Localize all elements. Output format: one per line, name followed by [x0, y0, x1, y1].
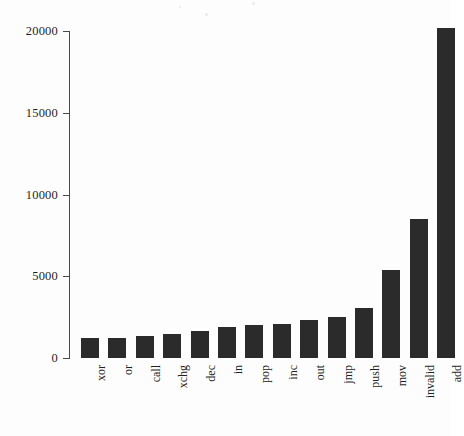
x-tick-label: xor	[95, 365, 107, 381]
y-tick-mark	[63, 276, 70, 277]
x-tick-label: xchg	[177, 365, 189, 388]
x-tick-label: out	[314, 365, 326, 380]
bar	[300, 320, 318, 358]
bar	[437, 28, 455, 358]
y-tick-mark	[63, 195, 70, 196]
bar	[328, 317, 346, 358]
bar	[245, 325, 263, 358]
bar	[191, 331, 209, 358]
x-tick-label: push	[369, 365, 381, 388]
x-tick-label: dec	[205, 365, 217, 382]
y-tick-label: 10000	[0, 189, 58, 202]
x-tick-label: in	[232, 365, 244, 374]
y-tick-label: 0	[0, 352, 58, 365]
bar	[273, 324, 291, 358]
x-tick-label: or	[122, 365, 134, 375]
x-tick-label: inc	[287, 365, 299, 380]
y-tick-mark	[63, 113, 70, 114]
bar	[355, 308, 373, 358]
x-tick-label: invalid	[424, 365, 436, 398]
y-tick-mark	[63, 31, 70, 32]
y-tick-label: 5000	[0, 270, 58, 283]
bar	[136, 336, 154, 358]
bar	[163, 334, 181, 358]
bar	[382, 270, 400, 358]
y-tick-label: 20000	[0, 25, 58, 38]
x-tick-label: add	[451, 365, 463, 382]
x-tick-label: mov	[396, 365, 408, 386]
y-tick-mark	[63, 358, 70, 359]
bar	[81, 338, 99, 358]
x-tick-label: jmp	[342, 365, 354, 384]
x-tick-label: pop	[259, 365, 271, 383]
x-tick-label: call	[150, 365, 162, 382]
scan-speck	[179, 6, 181, 8]
y-tick-label: 15000	[0, 107, 58, 120]
scan-speck	[205, 13, 208, 16]
bar	[218, 327, 236, 358]
scan-speck	[252, 2, 255, 5]
bar	[410, 219, 428, 358]
bar	[108, 338, 126, 358]
